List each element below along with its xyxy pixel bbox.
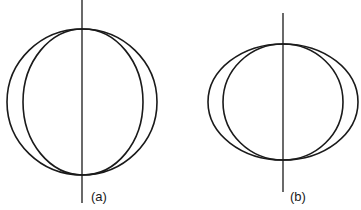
figure: (a) (b) xyxy=(0,0,361,210)
diagram-canvas: (a) (b) xyxy=(0,0,361,210)
panel-a: (a) xyxy=(7,0,157,204)
panel-b: (b) xyxy=(208,13,358,204)
panel-b-label: (b) xyxy=(290,189,306,204)
panel-a-label: (a) xyxy=(91,189,107,204)
panel-a-inner-ellipse xyxy=(23,29,143,175)
